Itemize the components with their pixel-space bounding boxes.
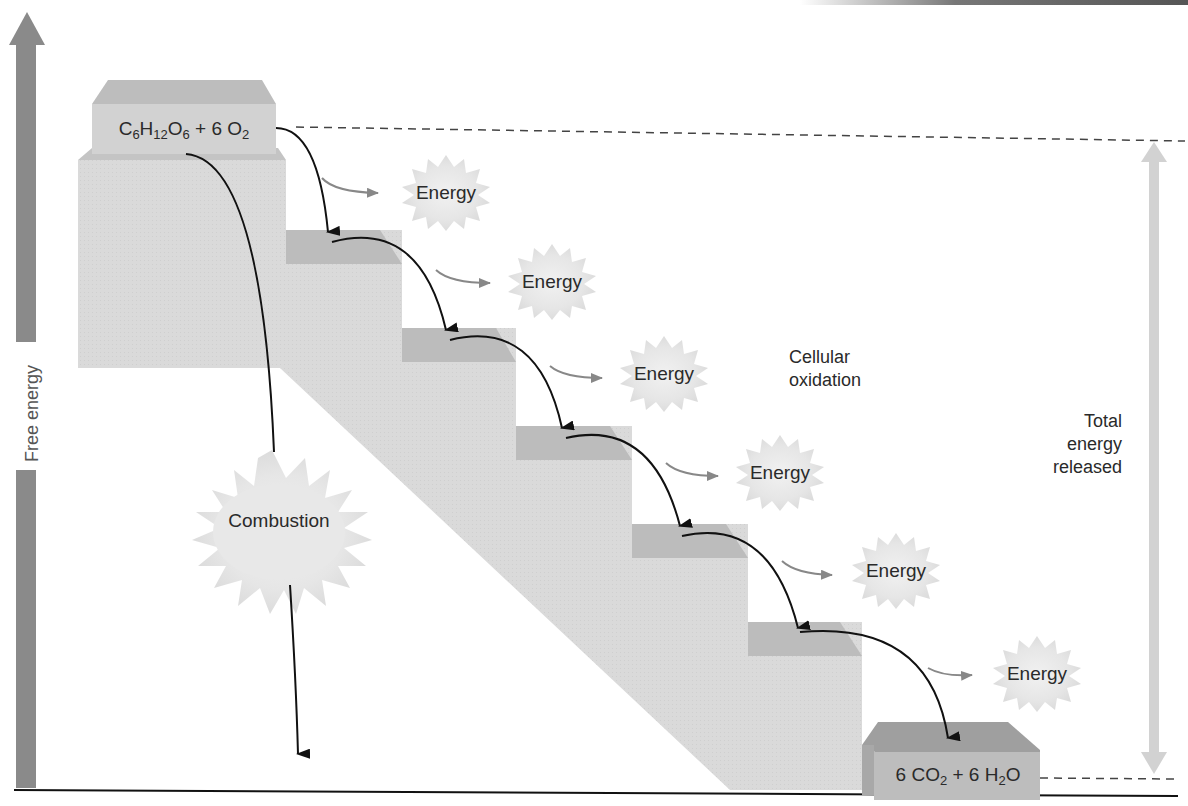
energy-label-3: Energy <box>634 363 694 385</box>
energy-diagram: Free energy C6H12O6 + 6 O2 6 CO2 + 6 H2O… <box>0 0 1188 806</box>
energy-label-4: Energy <box>750 462 810 484</box>
end-compound-label: 6 CO2 + 6 H2O <box>896 764 1021 788</box>
combustion-burst <box>192 450 372 614</box>
total-energy-released-label: Total energy released <box>1040 410 1122 479</box>
end-compound-block <box>862 722 1040 800</box>
end-level-dashed-line <box>1040 778 1175 779</box>
energy-label-6: Energy <box>1007 663 1067 685</box>
energy-label-1: Energy <box>416 182 476 204</box>
start-compound-block <box>92 80 276 154</box>
total-energy-arrow <box>1141 142 1167 774</box>
cellular-oxidation-label: Cellular oxidation <box>789 346 861 392</box>
y-axis-label: Free energy <box>22 365 43 462</box>
combustion-label: Combustion <box>228 510 329 532</box>
energy-label-5: Energy <box>866 560 926 582</box>
energy-label-2: Energy <box>522 271 582 293</box>
start-level-dashed-line <box>296 127 1185 141</box>
start-compound-label: C6H12O6 + 6 O2 <box>119 118 250 142</box>
